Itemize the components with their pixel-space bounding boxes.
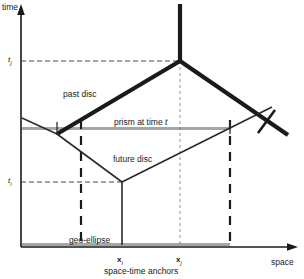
anchors-caption: space-time anchors [104,267,178,276]
past-disc-label: past disc [63,90,97,99]
left-vertex-notch [22,118,57,134]
anchor-label-x-j: xj [176,256,182,266]
prism-label: prism at time t [114,118,167,127]
time-axis-arrowhead [17,4,25,15]
tick-label-t-i: ti [8,177,12,187]
apex-right-ray [180,61,288,135]
space-axis-label: space [271,258,294,267]
geo-ellipse-label: geo-ellipse [69,236,110,245]
tick-label-t-j: tj [8,56,12,66]
anchor-label-x-i: xi [117,256,123,266]
anchor-label-x-j-sub: j [180,260,181,266]
time-axis-label: time [2,3,18,12]
anchor-label-x-i-sub: i [121,260,122,266]
thick-cone-group [57,4,288,135]
tick-label-t-j-sub: j [10,60,11,66]
tick-label-t-i-sub: i [10,181,11,187]
future-disc-label: future disc [113,155,152,164]
prism-label-variable: t [165,117,167,127]
space-time-diagram: time space tj ti past disc prism at time… [0,0,304,279]
space-axis-arrowhead [287,243,298,251]
prism-label-prefix: prism at time [114,117,165,127]
diagram-canvas [0,0,304,279]
